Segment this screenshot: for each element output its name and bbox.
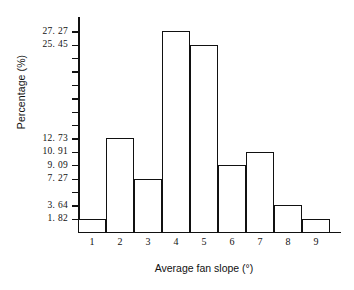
- histogram-bar: [106, 138, 134, 232]
- x-axis-tick-label: 9: [302, 236, 330, 247]
- histogram-bar: [190, 45, 218, 232]
- x-axis-tick-label: 7: [246, 236, 274, 247]
- y-axis-tick-label: 10. 91: [0, 146, 68, 156]
- x-axis-tick-label: 4: [162, 236, 190, 247]
- y-axis-tick-label: 3. 64: [0, 200, 68, 210]
- x-axis-tick-label: 2: [106, 236, 134, 247]
- histogram-bar: [274, 205, 302, 232]
- x-axis-tick-label: 6: [218, 236, 246, 247]
- histogram-bar: [78, 219, 106, 232]
- x-axis-tick-label: 3: [134, 236, 162, 247]
- histogram-bar: [218, 165, 246, 232]
- x-axis-tick-label: 8: [274, 236, 302, 247]
- histogram-bar: [134, 179, 162, 232]
- histogram-bar: [246, 152, 274, 232]
- plot-area: [78, 18, 330, 232]
- y-axis-tick-label: 12. 73: [0, 133, 68, 143]
- histogram-figure: Percentage (%) 27. 2725. 4512. 7310. 919…: [0, 0, 354, 290]
- x-axis-tick-label: 1: [78, 236, 106, 247]
- y-axis-tick-label: 25. 45: [0, 39, 68, 49]
- y-axis-tick-label: 7. 27: [0, 173, 68, 183]
- histogram-bar: [162, 31, 190, 232]
- y-axis-tick-label: 27. 27: [0, 26, 68, 36]
- x-axis-title: Average fan slope (°): [68, 262, 340, 274]
- y-axis-tick-label: 9. 09: [0, 160, 68, 170]
- y-axis-tick-label: 1. 82: [0, 213, 68, 223]
- histogram-bar: [302, 219, 330, 232]
- x-axis-tick-label: 5: [190, 236, 218, 247]
